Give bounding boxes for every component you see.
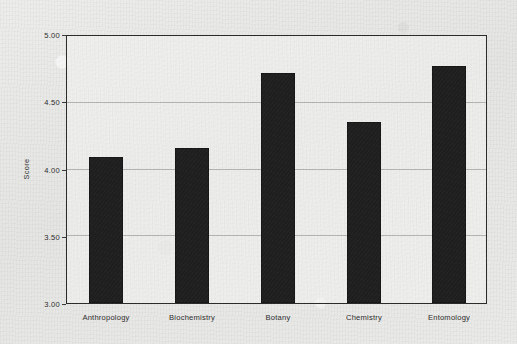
x-tick-label-entomology: Entomology [428,313,470,322]
y-tick-mark [62,304,66,305]
y-tick-label: 3.00 [8,300,60,309]
bar-chemistry [347,122,381,303]
bar-entomology [432,66,466,303]
chart-figure: Score 5.00 4.50 4.00 3.50 3.00 Anthropol… [0,0,517,344]
bar-biochemistry [175,148,209,303]
y-tick-label: 3.50 [8,233,60,242]
plot-area [66,35,487,304]
y-axis-ticks: 5.00 4.50 4.00 3.50 3.00 [0,0,60,344]
x-tick-label-anthropology: Anthropology [82,313,129,322]
y-tick-label: 4.50 [8,98,60,107]
y-tick-label: 5.00 [8,31,60,40]
x-tick-label-chemistry: Chemistry [346,313,382,322]
x-tick-label-biochemistry: Biochemistry [169,313,215,322]
bar-botany [261,73,295,303]
x-tick-label-botany: Botany [266,313,291,322]
y-tick-label: 4.00 [8,165,60,174]
bar-anthropology [89,157,123,303]
